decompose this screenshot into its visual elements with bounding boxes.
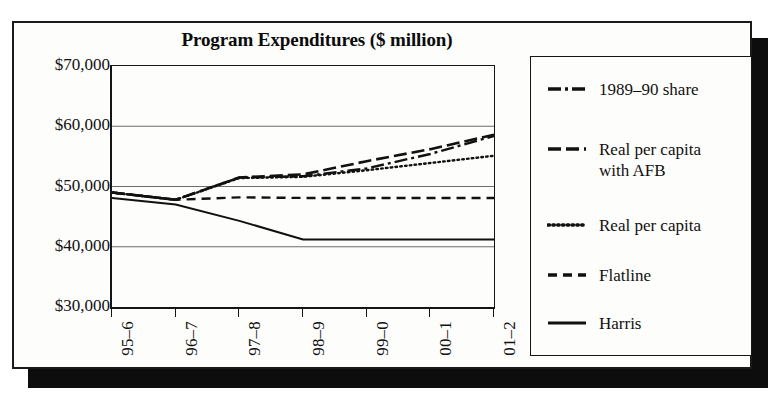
series-line — [112, 136, 494, 200]
x-axis-tick-mark — [366, 309, 367, 317]
legend-item[interactable]: Real per capita — [547, 215, 701, 236]
x-axis-tick-mark — [493, 309, 494, 317]
legend-line-swatch — [547, 140, 587, 158]
legend-item[interactable]: Flatline — [547, 265, 651, 286]
series-line — [112, 156, 494, 200]
x-axis-tick-label: 99–0 — [373, 321, 393, 356]
chart-legend: 1989–90 shareReal per capita with AFBRea… — [530, 56, 752, 356]
y-axis-ticks — [14, 65, 124, 309]
x-axis-tick-label: 96–7 — [182, 321, 202, 356]
legend-item-label: 1989–90 share — [599, 79, 699, 100]
plot-lines-svg — [112, 66, 494, 307]
x-axis-tick-mark — [111, 309, 112, 317]
x-axis-tick-mark — [175, 309, 176, 317]
x-axis-labels: 95–696–797–898–999–000–101–2 — [110, 309, 495, 375]
plot-area — [110, 65, 495, 309]
series-line — [112, 135, 494, 200]
legend-item-label: Real per capita — [599, 215, 701, 236]
x-axis-tick-mark — [429, 309, 430, 317]
series-line — [112, 198, 494, 240]
x-axis-tick-label: 01–2 — [500, 321, 520, 356]
legend-item[interactable]: Real per capita with AFB — [547, 139, 701, 181]
legend-item[interactable]: Harris — [547, 313, 641, 334]
legend-line-swatch — [547, 80, 587, 98]
x-axis-tick-label: 97–8 — [245, 321, 265, 356]
legend-line-swatch — [547, 314, 587, 332]
chart-figure-card: Program Expenditures ($ million) $70,000… — [12, 21, 752, 369]
x-axis-tick-mark — [238, 309, 239, 317]
legend-item-label: Harris — [599, 313, 641, 334]
legend-item-label: Flatline — [599, 265, 651, 286]
x-axis-tick-label: 98–9 — [309, 321, 329, 356]
legend-line-swatch — [547, 266, 587, 284]
x-axis-tick-label: 00–1 — [436, 321, 456, 356]
legend-line-swatch — [547, 216, 587, 234]
x-axis-tick-label: 95–6 — [118, 321, 138, 356]
chart-title: Program Expenditures ($ million) — [122, 29, 512, 51]
legend-item-label: Real per capita with AFB — [599, 139, 701, 181]
legend-item[interactable]: 1989–90 share — [547, 79, 699, 100]
x-axis-tick-mark — [302, 309, 303, 317]
